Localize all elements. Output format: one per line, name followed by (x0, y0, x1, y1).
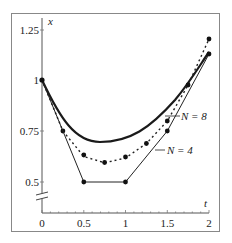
x-axis-label: t (204, 197, 208, 209)
y-axis-label: x (47, 15, 53, 27)
x-tick-label: 0 (39, 217, 45, 229)
y-tick-label: 1.25 (20, 24, 40, 36)
x-ticks (42, 210, 209, 213)
chart: 0 0.5 1 1.5 2 0.5 0.75 1 1.25 x t N = 8 … (0, 0, 232, 243)
x-tick-label: 2 (206, 217, 212, 229)
exact-solution-curve (42, 52, 209, 142)
x-tick-label: 1 (123, 217, 129, 229)
axis-break-icon (36, 192, 48, 200)
x-tick-label: 0.5 (77, 217, 91, 229)
n8-annotation: N = 8 (180, 110, 207, 122)
y-tick-label: 0.75 (20, 125, 40, 137)
y-tick-label: 1 (34, 74, 40, 86)
y-tick-label: 0.5 (25, 176, 39, 188)
x-tick-label: 1.5 (160, 217, 174, 229)
n4-annotation: N = 4 (166, 144, 193, 156)
